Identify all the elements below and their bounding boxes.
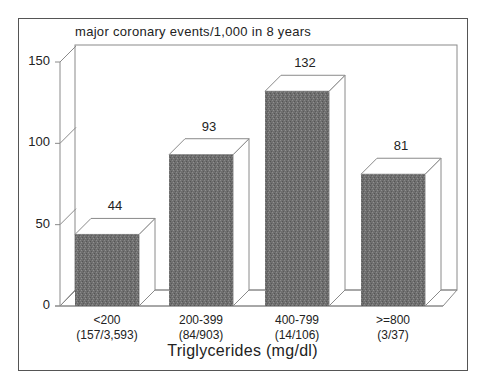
x-category-label: 400-799(14/106): [247, 313, 347, 343]
bar: [169, 139, 249, 306]
bar: [75, 218, 155, 306]
bar: [265, 75, 345, 306]
y-tick-label: 150: [20, 53, 50, 68]
bar-value-label: 81: [371, 138, 431, 153]
x-category-label: >=800(3/37): [343, 313, 443, 343]
bar-value-label: 93: [179, 119, 239, 134]
x-category-label: <200(157/3,593): [57, 313, 157, 343]
y-tick-label: 50: [20, 216, 50, 231]
bars: [75, 75, 441, 306]
y-tick-label: 0: [20, 297, 50, 312]
bar-value-label: 132: [275, 55, 335, 70]
bar: [361, 158, 441, 306]
x-axis-label: Triglycerides (mg/dl): [0, 342, 485, 360]
x-category-label: 200-399(84/903): [151, 313, 251, 343]
chart-title: major coronary events/1,000 in 8 years: [75, 24, 311, 39]
bar-value-label: 44: [85, 198, 145, 213]
y-tick-label: 100: [20, 134, 50, 149]
